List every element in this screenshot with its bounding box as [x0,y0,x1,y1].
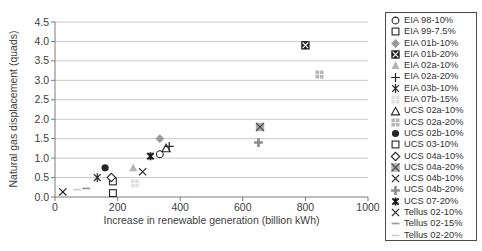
legend-item-eia-01b-20-: EIA 01b-20% [390,49,476,60]
x-tick-label: 1000 [356,201,380,213]
scatter-chart: 0.00.51.01.52.02.53.03.54.04.50200400600… [0,0,482,251]
legend-label: UCS 04b-10% [404,173,463,184]
data-point-tellus-02-10- [59,188,66,195]
legend-label: UCS 04a-20% [404,162,463,173]
legend-item-ucs-04b-10-: UCS 04b-10% [390,173,476,184]
legend-item-ucs-02a-20-: UCS 02a-20% [390,117,476,128]
legend-item-ucs-04a-10-: UCS 04a-10% [390,151,476,162]
legend-item-eia-99-7-5-: EIA 99-7.5% [390,26,476,37]
x-tick-label: 400 [171,201,189,213]
legend-label: EIA 99-7.5% [404,26,456,37]
legend-marker-star6-bold [390,196,401,207]
legend-marker-x-thin [390,207,401,218]
y-tick-label: 1.5 [34,132,49,144]
y-tick-label: 3.0 [34,74,49,86]
legend-item-eia-01b-10-: EIA 01b-10% [390,38,476,49]
legend-label: EIA 01b-20% [404,49,458,60]
legend-marker-square-open [390,26,401,37]
legend-label: Tellus 02-10% [404,207,462,218]
legend-marker-circle-open [390,15,401,26]
legend-label: Tellus 02-15% [404,218,462,229]
legend-marker-plus-bold [390,185,401,196]
legend-marker-square-4pane [390,94,401,105]
data-point-eia-99-7-5- [110,190,117,197]
data-point-ucs-02a-20- [315,71,323,79]
x-tick-label: 0 [52,201,58,213]
x-tick-label: 200 [109,201,127,213]
legend-label: EIA 07b-15% [404,94,458,105]
data-point-eia-07b-15- [131,179,139,187]
legend-marker-plus-thin [390,72,401,83]
y-tick-label: 0.5 [34,171,49,183]
legend-marker-square-gray-x [390,162,401,173]
legend-marker-square-open [390,139,401,150]
legend-item-ucs-07-20-: UCS 07-20% [390,196,476,207]
legend-item-tellus-02-20-: Tellus 02-20% [390,230,476,241]
x-tick-label: 800 [297,201,315,213]
legend-item-eia-03b-10-: EIA 03b-10% [390,83,476,94]
legend-item-eia-02a-10-: EIA 02a-10% [390,60,476,71]
y-tick-label: 2.0 [34,113,49,125]
legend-marker-square-black-x [390,49,401,60]
y-tick-label: 4.5 [34,16,49,28]
legend-item-tellus-02-15-: Tellus 02-15% [390,218,476,229]
y-tick-label: 2.5 [34,93,49,105]
legend-label: Tellus 02-20% [404,230,462,241]
legend-item-ucs-03-10-: UCS 03-10% [390,139,476,150]
legend-marker-diamond-filled [390,38,401,49]
x-tick-label: 600 [234,201,252,213]
legend-label: UCS 02b-10% [404,128,463,139]
legend-marker-circle-filled [390,128,401,139]
legend-marker-x-thin [390,173,401,184]
legend-item-tellus-02-10-: Tellus 02-10% [390,207,476,218]
legend-label: UCS 02a-10% [404,105,463,116]
legend-marker-dash [390,218,401,229]
legend-item-ucs-04b-20-: UCS 04b-20% [390,184,476,195]
y-axis-title: Natural gas displacement (quads) [7,31,19,188]
data-point-eia-02a-10- [129,164,137,172]
x-axis-title: Increase in renewable generation (billio… [55,214,368,226]
legend-marker-triangle-open [390,106,401,117]
data-point-eia-01b-20- [301,41,309,49]
data-point-ucs-02b-10- [101,164,108,171]
legend-marker-star6-thin [390,83,401,94]
legend-marker-triangle-filled [390,60,401,71]
legend-label: EIA 01b-10% [404,38,458,49]
data-point-eia-01b-10- [155,134,164,143]
legend-label: UCS 07-20% [404,196,458,207]
legend-item-ucs-04a-20-: UCS 04a-20% [390,162,476,173]
y-tick-label: 0.0 [34,191,49,203]
legend-label: UCS 02a-20% [404,117,463,128]
legend-item-ucs-02b-10-: UCS 02b-10% [390,128,476,139]
data-point-ucs-04a-20- [256,123,264,131]
legend-label: EIA 02a-20% [404,71,458,82]
y-tick-label: 4.0 [34,35,49,47]
legend-label: EIA 02a-10% [404,60,458,71]
legend-label: UCS 03-10% [404,139,458,150]
legend-item-ucs-02a-10-: UCS 02a-10% [390,105,476,116]
y-tick-label: 1.0 [34,152,49,164]
legend-label: UCS 04a-10% [404,151,463,162]
legend-label: UCS 04b-20% [404,184,463,195]
legend-label: EIA 03b-10% [404,83,458,94]
legend-item-eia-02a-20-: EIA 02a-20% [390,71,476,82]
data-point-ucs-07-20- [147,152,153,160]
data-point-ucs-04b-10- [139,168,146,175]
legend-item-eia-07b-15-: EIA 07b-15% [390,94,476,105]
legend: EIA 98-10%EIA 99-7.5%EIA 01b-10%EIA 01b-… [385,12,477,241]
legend-marker-dash [390,230,401,241]
data-point-ucs-04b-20- [254,138,263,147]
legend-label: EIA 98-10% [404,15,453,26]
y-tick-label: 3.5 [34,54,49,66]
legend-item-eia-98-10-: EIA 98-10% [390,15,476,26]
data-point-ucs-04a-10- [107,173,115,181]
legend-marker-square-4pane [390,117,401,128]
legend-marker-diamond-open [390,151,401,162]
